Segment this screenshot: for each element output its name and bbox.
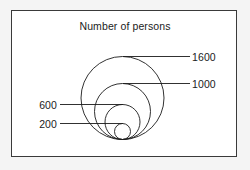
bubble-label-600: 600 [26, 99, 57, 111]
chart-title: Number of persons [0, 20, 250, 32]
bubble-label-1600: 1600 [192, 51, 216, 63]
bubble-1600 [81, 57, 164, 140]
screenshot-root: Number of persons 1600 1000 600 200 [0, 0, 250, 170]
bubble-1000 [95, 84, 151, 140]
bubble-200 [115, 124, 131, 140]
bubble-600 [105, 105, 140, 140]
bubble-label-200: 200 [26, 118, 57, 130]
bubble-label-1000: 1000 [192, 78, 216, 90]
